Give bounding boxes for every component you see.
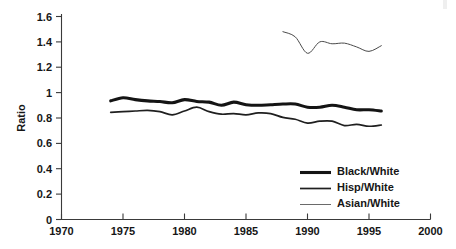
- ratio-line-chart: 0 0.2 0.4 0.6 0.8 1 1.2 1.4 1.6 1970 197…: [0, 0, 456, 249]
- y-axis-tick-labels: 0 0.2 0.4 0.6 0.8 1 1.2 1.4 1.6: [37, 11, 53, 226]
- x-tick-label-1975: 1975: [111, 225, 135, 237]
- x-tick-label-1995: 1995: [357, 225, 381, 237]
- series-line-hisp-white: [111, 107, 382, 126]
- x-tick-label-1985: 1985: [234, 225, 258, 237]
- y-tick-label-0.8: 0.8: [37, 112, 52, 124]
- x-tick-label-1970: 1970: [49, 225, 73, 237]
- y-tick-label-1.6: 1.6: [37, 11, 52, 23]
- y-axis-ticks: [56, 17, 62, 220]
- y-axis-title: Ratio: [15, 104, 27, 132]
- chart-container: 0 0.2 0.4 0.6 0.8 1 1.2 1.4 1.6 1970 197…: [0, 0, 456, 249]
- legend-label-asian-white: Asian/White: [337, 197, 400, 209]
- y-tick-label-1: 1: [46, 87, 52, 99]
- x-axis-ticks: [62, 214, 431, 220]
- scan-artifact: [443, 0, 447, 9]
- y-tick-label-0.2: 0.2: [37, 188, 52, 200]
- y-tick-label-0: 0: [46, 214, 52, 226]
- legend-label-hisp-white: Hisp/White: [337, 181, 394, 193]
- y-tick-label-1.2: 1.2: [37, 61, 52, 73]
- x-tick-label-1990: 1990: [295, 225, 319, 237]
- y-tick-label-0.4: 0.4: [37, 163, 53, 175]
- x-axis-tick-labels: 1970 1975 1980 1985 1990 1995 2000: [49, 225, 442, 237]
- series-line-asian-white: [283, 32, 381, 54]
- chart-legend: Black/White Hisp/White Asian/White: [300, 165, 400, 209]
- x-tick-label-2000: 2000: [418, 225, 442, 237]
- y-tick-label-1.4: 1.4: [37, 36, 53, 48]
- legend-label-black-white: Black/White: [337, 165, 399, 177]
- series-line-black-white: [111, 98, 382, 111]
- x-tick-label-1980: 1980: [172, 225, 196, 237]
- y-tick-label-0.6: 0.6: [37, 137, 52, 149]
